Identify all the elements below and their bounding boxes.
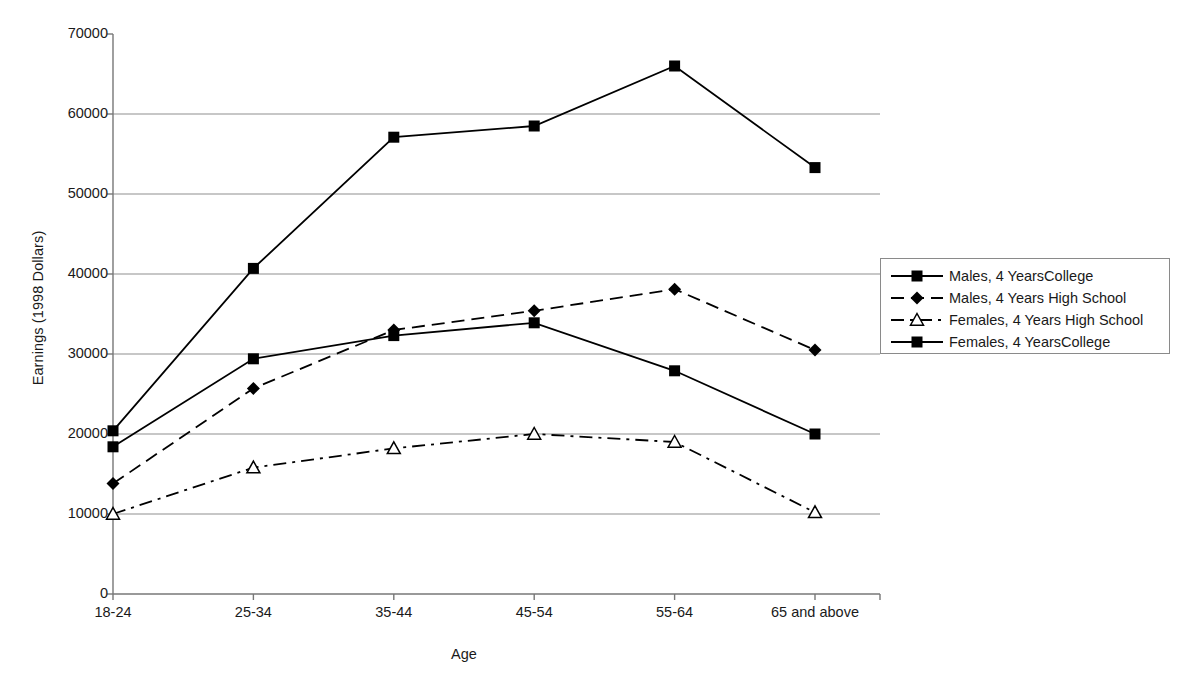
data-point-marker-square <box>669 365 680 376</box>
legend-swatch <box>889 288 945 308</box>
data-point-marker-square <box>108 441 119 452</box>
legend: Males, 4 YearsCollegeMales, 4 Years High… <box>880 258 1170 354</box>
y-axis-tick-label: 70000 <box>38 26 108 41</box>
data-point-marker-triangle <box>528 428 541 440</box>
data-point-marker-square <box>529 317 540 328</box>
data-point-marker-square <box>388 132 399 143</box>
legend-label: Females, 4 Years High School <box>945 312 1143 328</box>
data-point-marker-triangle <box>387 442 400 454</box>
legend-item[interactable]: Females, 4 Years High School <box>889 309 1161 331</box>
y-axis-tick-label: 60000 <box>38 106 108 121</box>
data-point-marker-diamond <box>911 292 924 305</box>
data-point-marker-square <box>388 330 399 341</box>
data-point-marker-triangle <box>809 506 822 518</box>
legend-swatch <box>889 266 945 286</box>
y-axis-tick-label: 0 <box>38 586 108 601</box>
x-axis-tick-label: 25-34 <box>235 604 272 620</box>
x-axis-tick-label: 65 and above <box>771 604 859 620</box>
data-point-marker-square <box>108 425 119 436</box>
x-axis-tick-label: 45-54 <box>516 604 553 620</box>
legend-item[interactable]: Males, 4 Years High School <box>889 287 1161 309</box>
x-axis-tick-label: 18-24 <box>94 604 131 620</box>
data-point-marker-square <box>810 162 821 173</box>
legend-label: Males, 4 YearsCollege <box>945 268 1093 284</box>
series-line <box>113 66 815 431</box>
data-point-marker-square <box>248 353 259 364</box>
legend-item[interactable]: Males, 4 YearsCollege <box>889 265 1161 287</box>
y-axis-tick-label: 30000 <box>38 346 108 361</box>
data-point-marker-diamond <box>528 304 541 317</box>
y-axis-tick-label: 20000 <box>38 426 108 441</box>
series-line <box>113 434 815 514</box>
legend-label: Females, 4 YearsCollege <box>945 334 1110 350</box>
x-axis-tick-label: 55-64 <box>656 604 693 620</box>
series-line <box>113 323 815 447</box>
x-axis-title: Age <box>113 646 815 662</box>
data-point-marker-diamond <box>809 344 822 357</box>
data-point-marker-square <box>248 263 259 274</box>
y-axis-tick-labels: 010000200003000040000500006000070000 <box>36 0 108 685</box>
data-point-marker-square <box>912 337 923 348</box>
data-point-marker-square <box>669 61 680 72</box>
earnings-by-age-line-chart: Earnings (1998 Dollars) 0100002000030000… <box>0 0 1196 685</box>
y-axis-tick-label: 40000 <box>38 266 108 281</box>
data-point-marker-square <box>810 429 821 440</box>
data-point-marker-square <box>529 121 540 132</box>
data-point-marker-diamond <box>107 477 120 490</box>
x-axis-tick-label: 35-44 <box>375 604 412 620</box>
legend-label: Males, 4 Years High School <box>945 290 1126 306</box>
data-point-marker-diamond <box>668 283 681 296</box>
data-point-marker-square <box>912 271 923 282</box>
legend-item[interactable]: Females, 4 YearsCollege <box>889 331 1161 353</box>
legend-swatch <box>889 310 945 330</box>
y-axis-tick-label: 50000 <box>38 186 108 201</box>
legend-swatch <box>889 332 945 352</box>
y-axis-tick-label: 10000 <box>38 506 108 521</box>
data-point-marker-diamond <box>247 382 260 395</box>
